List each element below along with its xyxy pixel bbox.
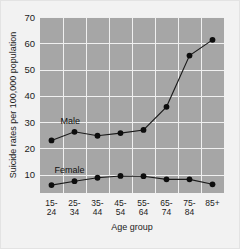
suicide-rates-line-chart: 10203040506070Suicide rates per 100,000 …: [0, 0, 240, 249]
data-point: [164, 176, 170, 182]
data-point: [210, 181, 216, 187]
x-axis-title: Age group: [111, 222, 153, 232]
data-point: [210, 37, 216, 43]
y-tick-label: 20: [24, 143, 35, 154]
x-tick-label-bottom: 84: [185, 207, 195, 217]
x-tick-label-bottom: 34: [70, 207, 80, 217]
x-tick-label-bottom: 44: [93, 207, 103, 217]
data-point: [141, 173, 147, 179]
data-point: [72, 178, 78, 184]
data-point: [72, 129, 78, 135]
y-tick-label: 60: [24, 38, 35, 49]
data-point: [187, 176, 193, 182]
series-label-male: Male: [61, 116, 81, 126]
x-tick-label-top: 85+: [205, 198, 219, 208]
data-point: [49, 138, 55, 144]
y-tick-label: 70: [24, 12, 35, 23]
y-tick-label: 40: [24, 90, 35, 101]
y-axis-ticks: 10203040506070: [24, 12, 35, 181]
data-point: [141, 127, 147, 133]
x-axis-ticks: 15-2425-3435-4445-5455-6465-7475-8485+: [45, 198, 219, 217]
x-tick-label-bottom: 74: [162, 207, 172, 217]
data-point: [95, 175, 101, 181]
data-point: [118, 173, 124, 179]
x-tick-label-bottom: 24: [47, 207, 57, 217]
data-point: [49, 182, 55, 188]
y-tick-label: 50: [24, 64, 35, 75]
data-point: [164, 104, 170, 110]
data-point: [95, 133, 101, 139]
y-axis-title: Suicide rates per 100,000 population: [8, 32, 18, 179]
data-point: [187, 53, 193, 59]
figure-container: 10203040506070Suicide rates per 100,000 …: [0, 0, 240, 249]
y-tick-label: 30: [24, 117, 35, 128]
y-tick-label: 10: [24, 169, 35, 180]
x-tick-label-bottom: 54: [116, 207, 126, 217]
data-point: [118, 130, 124, 136]
x-tick-label-bottom: 64: [139, 207, 149, 217]
series-label-female: Female: [55, 165, 85, 175]
